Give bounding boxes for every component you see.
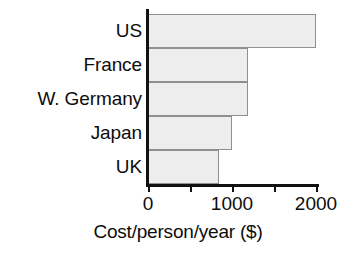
category-label-uk: UK [116, 150, 142, 184]
category-axis-labels: US France W. Germany Japan UK [0, 14, 145, 184]
x-axis-title: Cost/person/year ($) [0, 221, 356, 243]
plot-area [148, 14, 326, 184]
bar-japan [148, 116, 232, 150]
bar-row-w-germany [148, 82, 248, 116]
x-tick-500 [190, 184, 192, 192]
x-tick-1500 [274, 184, 276, 192]
y-axis-line [146, 9, 149, 187]
x-tick-0 [148, 184, 150, 192]
bar-row-france [148, 48, 248, 82]
bar-row-japan [148, 116, 232, 150]
bar-w-germany [148, 82, 248, 116]
category-label-w-germany: W. Germany [37, 82, 142, 116]
bar-france [148, 48, 248, 82]
x-tick-label-0: 0 [143, 193, 154, 215]
x-tick-label-2000: 2000 [295, 193, 337, 215]
bar-chart: US France W. Germany Japan UK 010002000 … [0, 0, 356, 268]
category-label-japan: Japan [91, 116, 142, 150]
x-tick-1000 [232, 184, 234, 192]
bar-row-uk [148, 150, 219, 184]
category-label-us: US [116, 14, 142, 48]
bar-row-us [148, 14, 316, 48]
bar-us [148, 14, 316, 48]
category-label-france: France [83, 48, 142, 82]
x-tick-2000 [316, 184, 318, 192]
x-tick-label-1000: 1000 [211, 193, 253, 215]
bar-uk [148, 150, 219, 184]
